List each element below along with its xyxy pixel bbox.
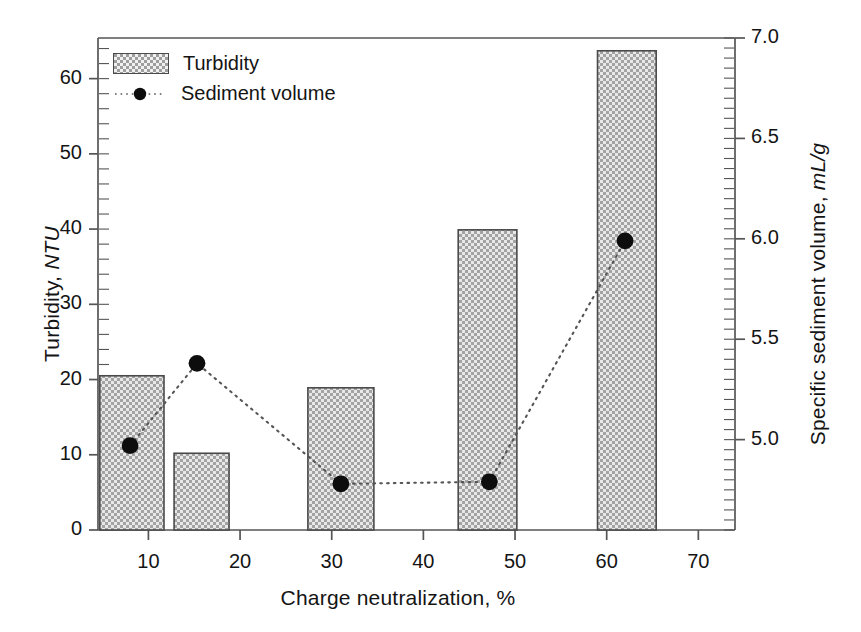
y-left-tick-label: 40 xyxy=(38,216,82,239)
y-left-tick-label: 10 xyxy=(38,442,82,465)
y-right-tick-label: 6.0 xyxy=(751,226,803,249)
data-point-sediment-volume xyxy=(189,355,206,372)
bar-turbidity xyxy=(598,51,657,530)
data-point-sediment-volume xyxy=(332,475,349,492)
y-right-tick-label: 6.5 xyxy=(751,125,803,148)
x-tick-label: 70 xyxy=(672,550,724,573)
x-tick-label: 50 xyxy=(489,550,541,573)
data-point-sediment-volume xyxy=(617,232,634,249)
bar-series-turbidity xyxy=(100,51,656,530)
x-tick-label: 20 xyxy=(214,550,266,573)
legend-item-sediment-volume: Sediment volume xyxy=(113,78,336,108)
bar-turbidity xyxy=(308,388,374,530)
bar-turbidity xyxy=(174,453,229,530)
legend-item-turbidity: Turbidity xyxy=(113,48,336,78)
legend-label-sediment-volume: Sediment volume xyxy=(181,83,336,103)
y-left-tick-label: 50 xyxy=(38,141,82,164)
y-right-tick-label: 5.0 xyxy=(751,427,803,450)
data-point-sediment-volume xyxy=(122,437,139,454)
legend-label-turbidity: Turbidity xyxy=(183,53,259,73)
x-tick-label: 60 xyxy=(581,550,633,573)
y-left-tick-label: 20 xyxy=(38,367,82,390)
y-left-tick-label: 30 xyxy=(38,291,82,314)
data-point-sediment-volume xyxy=(481,473,498,490)
x-tick-label: 30 xyxy=(306,550,358,573)
y-left-tick-label: 0 xyxy=(38,517,82,540)
y-right-tick-label: 7.0 xyxy=(751,25,803,48)
legend: Turbidity Sediment volume xyxy=(113,48,336,108)
hatched-patch-icon xyxy=(113,53,169,74)
y-right-tick-label: 5.5 xyxy=(751,326,803,349)
figure-turbidity-sediment-volume: Turbidity, NTU Specific sediment volume,… xyxy=(0,0,861,632)
x-tick-label: 10 xyxy=(122,550,174,573)
y-left-tick-label: 60 xyxy=(38,66,82,89)
x-tick-label: 40 xyxy=(397,550,449,573)
dotted-line-circle-marker-icon xyxy=(113,84,167,103)
